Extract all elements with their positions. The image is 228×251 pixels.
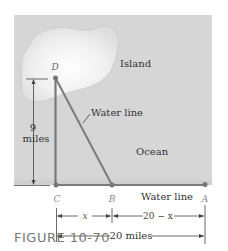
ocean-label: Ocean: [136, 146, 169, 157]
dim-x-arrow-left-icon: [57, 214, 62, 218]
dim-20-minus-x-label: 20 − x: [143, 211, 173, 221]
dim-total-arrow-right-icon: [199, 234, 204, 238]
dim-x-arrow-right-icon: [106, 214, 111, 218]
dim-20x-arrow-left-icon: [113, 214, 118, 218]
point-b-label: B: [108, 194, 116, 204]
figure-caption: FIGURE 10-70: [14, 230, 110, 245]
point-d-marker: [53, 76, 58, 81]
point-c-label: C: [54, 194, 61, 204]
point-b-marker: [110, 183, 115, 188]
height-unit-label: miles: [23, 133, 50, 144]
water-line-shore-label: Water line: [141, 191, 193, 202]
point-a-marker: [203, 182, 208, 187]
point-c-marker: [54, 183, 59, 188]
dim-x-label: x: [82, 211, 87, 221]
dim-total-label: 20 miles: [110, 230, 153, 241]
island-label: Island: [120, 58, 152, 69]
water-line-diagonal-label: Water line: [91, 107, 143, 118]
height-value-label: 9: [30, 122, 36, 133]
dim-20x-arrow-right-icon: [199, 214, 204, 218]
point-d-label: D: [50, 62, 58, 72]
point-a-label: A: [201, 194, 209, 204]
island-ocean-diagram: 9 miles D C B A Island Ocean Water line …: [0, 0, 228, 251]
